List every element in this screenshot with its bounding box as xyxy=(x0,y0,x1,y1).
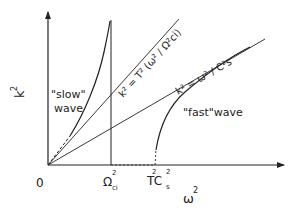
y-axis-label-sup: 2 xyxy=(10,86,19,91)
fast-wave-curve xyxy=(156,47,250,150)
lower-line-label: k² = ω² / C²s xyxy=(174,56,234,97)
omega-ci-sub: ci xyxy=(112,184,118,192)
x-axis-label-sup: 2 xyxy=(193,186,198,195)
slow-wave-curve-dashed xyxy=(48,136,70,165)
fast-wave-curve-dashed xyxy=(155,150,156,165)
slow-wave-label-line1: "slow" xyxy=(51,88,86,101)
origin-label: 0 xyxy=(36,176,44,190)
t-cs-sub: s xyxy=(166,183,170,191)
t-cs-main: TC xyxy=(146,174,162,188)
dispersion-diagram: k 2 ω 2 0 Ω 2 ci 2 TC 2 s k² = T² (ω² / … xyxy=(0,0,294,220)
slow-wave-label-line2: wave xyxy=(54,102,83,115)
x-axis-label: ω 2 xyxy=(183,186,198,206)
y-axis-label: k 2 xyxy=(10,86,27,98)
fast-wave-label: "fast"wave xyxy=(183,106,243,119)
omega-ci-sup: 2 xyxy=(112,169,116,177)
t-cs-tick-label: 2 TC 2 s xyxy=(146,168,170,191)
omega-ci-tick-label: Ω 2 ci xyxy=(103,169,118,192)
omega-ci-main: Ω xyxy=(103,175,112,189)
t-cs-sup: 2 xyxy=(166,168,170,176)
